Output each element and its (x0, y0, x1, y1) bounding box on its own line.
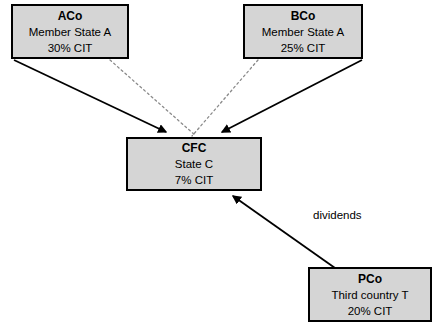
node-aco-title: ACo (58, 8, 83, 24)
edge-bco-to-cfc-dotted (192, 60, 258, 136)
node-bco-jurisdiction: Member State A (262, 24, 344, 40)
node-pco-jurisdiction: Third country T (331, 287, 408, 303)
node-aco-tax-rate: 30% CIT (48, 40, 93, 56)
node-bco-title: BCo (291, 8, 316, 24)
node-cfc-tax-rate: 7% CIT (175, 172, 213, 188)
node-pco[interactable]: PCo Third country T 20% CIT (308, 267, 432, 322)
edge-aco-to-cfc-solid (14, 60, 166, 132)
edge-label-dividends: dividends (313, 209, 362, 221)
node-aco-jurisdiction: Member State A (29, 24, 111, 40)
node-cfc-title: CFC (182, 140, 207, 156)
node-cfc[interactable]: CFC State C 7% CIT (126, 137, 262, 191)
node-cfc-jurisdiction: State C (175, 156, 213, 172)
edge-pco-to-cfc-dividends (233, 196, 335, 268)
node-aco[interactable]: ACo Member State A 30% CIT (11, 4, 129, 59)
edge-bco-to-cfc-solid (222, 60, 362, 132)
node-pco-tax-rate: 20% CIT (348, 303, 393, 319)
cfc-structure-diagram: ACo Member State A 30% CIT BCo Member St… (0, 0, 434, 331)
node-bco-tax-rate: 25% CIT (281, 40, 326, 56)
edge-aco-to-cfc-dotted (110, 60, 196, 136)
node-bco[interactable]: BCo Member State A 25% CIT (243, 4, 363, 59)
node-pco-title: PCo (358, 271, 382, 287)
